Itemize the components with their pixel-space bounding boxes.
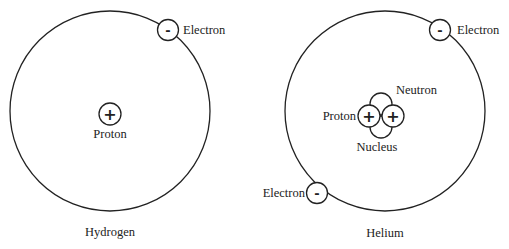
atom-diagram: - Electron + Proton Hydrogen - Electron … xyxy=(0,0,509,249)
minus-sign: - xyxy=(437,23,442,38)
hydrogen-proton-label: Proton xyxy=(93,127,127,141)
helium-nucleus-label: Nucleus xyxy=(357,140,398,154)
hydrogen-electron: - xyxy=(158,20,179,41)
helium-neutron-label: Neutron xyxy=(396,83,438,97)
helium-electron-bottom-label: Electron xyxy=(263,186,306,200)
minus-sign: - xyxy=(314,186,319,201)
helium-nucleus: + + xyxy=(358,93,404,138)
helium-atom: - Electron - Electron + + Proton Neutron… xyxy=(263,11,500,240)
helium-title: Helium xyxy=(366,226,404,240)
plus-sign: + xyxy=(386,107,399,126)
hydrogen-atom: - Electron + Proton Hydrogen xyxy=(10,11,226,239)
hydrogen-electron-label: Electron xyxy=(183,23,226,37)
plus-sign: + xyxy=(103,105,116,124)
hydrogen-title: Hydrogen xyxy=(85,225,136,239)
hydrogen-proton: + xyxy=(99,103,121,125)
helium-electron-top: - xyxy=(430,20,451,41)
helium-electron-top-label: Electron xyxy=(457,23,500,37)
plus-sign: + xyxy=(362,107,375,126)
helium-proton-label: Proton xyxy=(323,109,357,123)
minus-sign: - xyxy=(165,23,170,38)
helium-electron-bottom: - xyxy=(307,183,328,204)
